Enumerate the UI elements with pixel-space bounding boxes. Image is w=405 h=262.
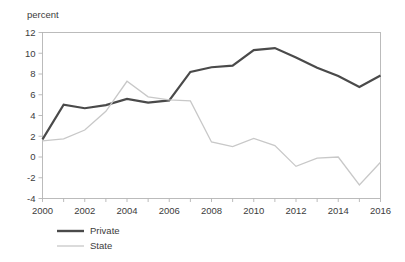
x-axis-tick-group: 200020022004200620082010201220142016 [32, 199, 391, 216]
x-axis-tick-label: 2000 [32, 205, 53, 216]
x-axis-tick-label: 2006 [159, 205, 180, 216]
legend-label-private: Private [90, 225, 120, 236]
y-axis-tick-label: 2 [30, 131, 35, 142]
legend-label-state: State [90, 240, 112, 251]
y-axis-tick-label: 4 [30, 110, 35, 121]
series-line-state [43, 81, 381, 185]
x-axis-tick-label: 2004 [116, 205, 137, 216]
chart-legend: PrivateState [57, 225, 120, 251]
plot-area-frame [43, 33, 381, 199]
x-axis-tick-label: 2008 [201, 205, 222, 216]
x-axis-tick-label: 2002 [74, 205, 95, 216]
series-group [43, 48, 381, 185]
x-axis-tick-label: 2010 [243, 205, 264, 216]
y-axis-tick-label: 0 [30, 151, 35, 162]
y-axis-tick-label: 8 [30, 68, 35, 79]
y-axis-tick-label: 12 [25, 27, 36, 38]
series-line-private [43, 48, 381, 139]
x-axis-tick-label: 2014 [328, 205, 349, 216]
chart-container: percent 121086420-2-4 200020022004200620… [0, 0, 405, 262]
y-axis-tick-label: 10 [25, 48, 36, 59]
line-chart: percent 121086420-2-4 200020022004200620… [0, 0, 405, 262]
y-axis-tick-label: 6 [30, 89, 35, 100]
y-axis-unit-label: percent [27, 9, 59, 20]
y-axis-tick-group: 121086420-2-4 [25, 27, 43, 204]
x-axis-tick-label: 2012 [285, 205, 306, 216]
y-axis-tick-label: -4 [27, 193, 35, 204]
y-axis-tick-label: -2 [27, 172, 35, 183]
x-axis-tick-label: 2016 [370, 205, 391, 216]
